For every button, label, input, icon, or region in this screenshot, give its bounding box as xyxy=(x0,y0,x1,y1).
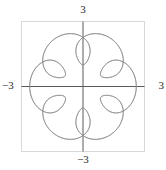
x-axis-min-tick-label: −3 xyxy=(2,80,14,91)
plot-canvas xyxy=(0,0,166,170)
x-axis-max-tick-label: 3 xyxy=(159,80,165,91)
y-axis-min-tick-label: −3 xyxy=(0,154,166,165)
y-axis-max-tick-label: 3 xyxy=(0,4,166,15)
parametric-plot-figure: 3 −3 −3 3 xyxy=(0,0,166,170)
